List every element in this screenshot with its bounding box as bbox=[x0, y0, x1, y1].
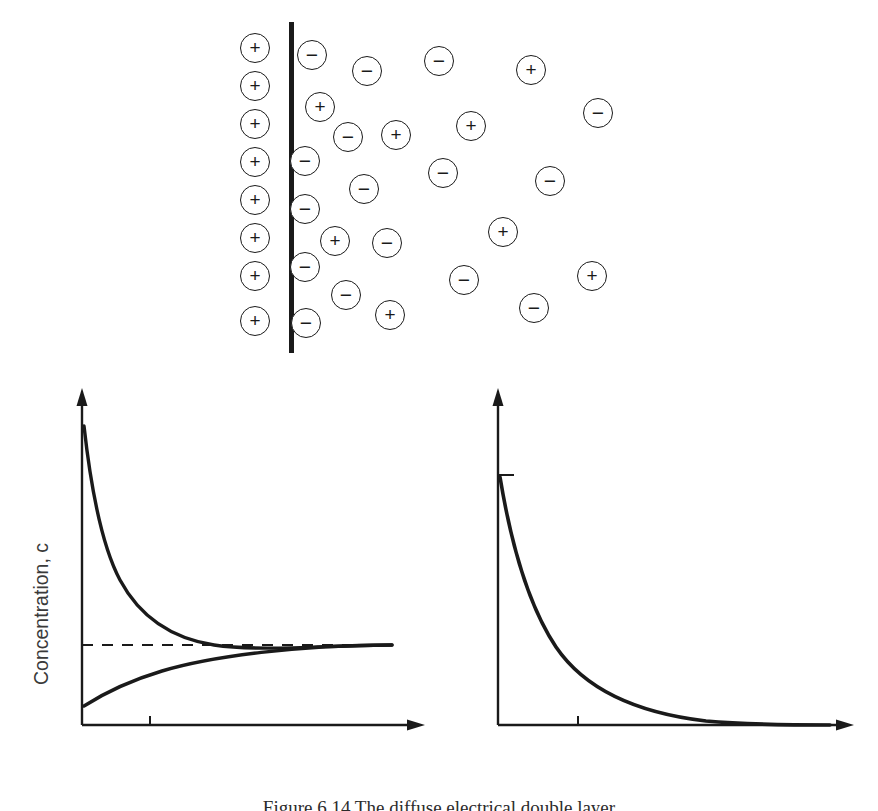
wall-ion-cation: + bbox=[240, 261, 270, 291]
ion-charge-glyph: − bbox=[353, 57, 381, 85]
solution-ion-cation: + bbox=[516, 55, 546, 85]
counterions-curve bbox=[84, 426, 392, 648]
solution-ion-cation: + bbox=[320, 226, 350, 256]
ion-charge-glyph: − bbox=[536, 167, 564, 195]
solution-ion-anion: − bbox=[583, 98, 613, 128]
wall-ion-cation: + bbox=[240, 223, 270, 253]
solution-ion-anion: − bbox=[297, 40, 327, 70]
solution-ion-anion: − bbox=[449, 265, 479, 295]
solution-ion-anion: − bbox=[519, 293, 549, 323]
y-axis-label-concentration: Concentration, c bbox=[30, 543, 53, 685]
ion-charge-glyph: − bbox=[334, 123, 362, 151]
solution-ion-cation: + bbox=[456, 111, 486, 141]
ion-charge-glyph: − bbox=[350, 175, 378, 203]
figure-caption: Figure 6.14 The diffuse electrical doubl… bbox=[0, 797, 878, 811]
ion-charge-glyph: + bbox=[241, 224, 269, 252]
double-layer-diagram: ++++++++ −−−++−++−−−−−−+−+−−+−+−− bbox=[0, 0, 878, 372]
ion-charge-glyph: + bbox=[306, 93, 334, 121]
ion-charge-glyph: + bbox=[376, 301, 404, 329]
solution-ion-anion: − bbox=[290, 146, 320, 176]
solution-ion-anion: − bbox=[291, 308, 321, 338]
coions-curve bbox=[84, 645, 392, 706]
ion-charge-glyph: + bbox=[241, 148, 269, 176]
ion-charge-glyph: + bbox=[321, 227, 349, 255]
ion-charge-glyph: − bbox=[520, 294, 548, 322]
ion-charge-glyph: + bbox=[241, 34, 269, 62]
solution-ion-anion: − bbox=[424, 46, 454, 76]
solution-ion-anion: − bbox=[333, 122, 363, 152]
x-axis-arrowhead bbox=[836, 720, 854, 731]
solution-ion-anion: − bbox=[331, 280, 361, 310]
ion-charge-glyph: + bbox=[241, 186, 269, 214]
wall-ion-cation: + bbox=[240, 109, 270, 139]
solution-ion-anion: − bbox=[535, 166, 565, 196]
solution-ion-anion: − bbox=[372, 228, 402, 258]
figure-double-layer: ++++++++ −−−++−++−−−−−−+−+−−+−+−− Concen… bbox=[0, 0, 878, 811]
ion-charge-glyph: − bbox=[291, 147, 319, 175]
chart-concentration: Concentration, c c0 0 λD Counterions Coi… bbox=[0, 380, 440, 811]
ion-charge-glyph: + bbox=[382, 121, 410, 149]
ion-charge-glyph: + bbox=[241, 262, 269, 290]
y-axis-arrowhead bbox=[493, 388, 504, 406]
solution-ion-cation: + bbox=[305, 92, 335, 122]
wall-ion-cation: + bbox=[240, 185, 270, 215]
charged-wall-line bbox=[289, 22, 294, 353]
ion-charge-glyph: − bbox=[291, 253, 319, 281]
ion-charge-glyph: − bbox=[429, 159, 457, 187]
wall-ion-cation: + bbox=[240, 33, 270, 63]
solution-ion-cation: + bbox=[488, 217, 518, 247]
ion-charge-glyph: − bbox=[373, 229, 401, 257]
x-axis-arrowhead bbox=[407, 720, 425, 731]
ion-charge-glyph: + bbox=[241, 110, 269, 138]
solution-ion-anion: − bbox=[290, 194, 320, 224]
ion-charge-glyph: + bbox=[241, 307, 269, 335]
ion-charge-glyph: − bbox=[425, 47, 453, 75]
solution-ion-cation: + bbox=[375, 300, 405, 330]
ion-charge-glyph: + bbox=[489, 218, 517, 246]
ion-charge-glyph: − bbox=[298, 41, 326, 69]
solution-ion-anion: − bbox=[290, 252, 320, 282]
ion-charge-glyph: + bbox=[578, 262, 606, 290]
ion-charge-glyph: − bbox=[332, 281, 360, 309]
chart-potential: Potential, φ φw 0 λD Distance, x bbox=[438, 380, 878, 811]
ion-charge-glyph: + bbox=[517, 56, 545, 84]
ion-charge-glyph: − bbox=[291, 195, 319, 223]
potential-curve bbox=[500, 477, 830, 725]
solution-ion-anion: − bbox=[352, 56, 382, 86]
ion-charge-glyph: + bbox=[241, 72, 269, 100]
ion-charge-glyph: − bbox=[292, 309, 320, 337]
solution-ion-cation: + bbox=[381, 120, 411, 150]
solution-ion-anion: − bbox=[349, 174, 379, 204]
solution-ion-anion: − bbox=[428, 158, 458, 188]
wall-ion-cation: + bbox=[240, 147, 270, 177]
ion-charge-glyph: − bbox=[584, 99, 612, 127]
ion-charge-glyph: + bbox=[457, 112, 485, 140]
solution-ion-cation: + bbox=[577, 261, 607, 291]
y-axis-arrowhead bbox=[77, 388, 88, 406]
wall-ion-cation: + bbox=[240, 306, 270, 336]
wall-ion-cation: + bbox=[240, 71, 270, 101]
ion-charge-glyph: − bbox=[450, 266, 478, 294]
